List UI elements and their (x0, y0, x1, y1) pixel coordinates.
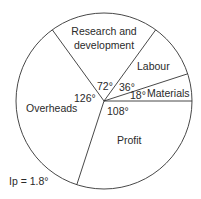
pie-chart: Research and development Labour Material… (0, 0, 201, 199)
label-labour: Labour (137, 60, 170, 72)
label-rd-1: Research and (71, 25, 137, 37)
label-profit: Profit (117, 134, 142, 146)
angle-materials: 18° (130, 89, 146, 101)
scale-note: Ip = 1.8° (9, 175, 49, 187)
label-rd-2: development (74, 39, 134, 51)
label-materials: Materials (147, 87, 190, 99)
angle-rd: 72° (97, 80, 113, 92)
angle-profit: 108° (107, 105, 129, 117)
angle-overheads: 126° (74, 92, 96, 104)
label-overheads: Overheads (26, 102, 77, 114)
